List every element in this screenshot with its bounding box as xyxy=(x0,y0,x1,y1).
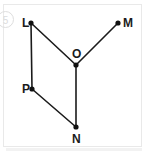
segment-pn xyxy=(32,89,76,127)
vertex-label-m: M xyxy=(123,16,133,30)
vertex-point-o xyxy=(73,62,78,67)
segment-mo xyxy=(76,23,118,65)
geometry-figure: LMOPN xyxy=(0,0,150,159)
segment-lo xyxy=(31,23,76,65)
segment-lp xyxy=(31,23,32,89)
segment-group xyxy=(31,23,118,127)
vertex-label-p: P xyxy=(22,82,30,96)
vertex-label-o: O xyxy=(72,47,81,61)
vertex-label-l: L xyxy=(22,16,29,30)
vertex-point-m xyxy=(115,20,120,25)
vertex-group: LMOPN xyxy=(22,16,133,146)
vertex-point-p xyxy=(29,86,34,91)
diagram-page: 5 LMOPN xyxy=(0,0,150,159)
vertex-label-n: N xyxy=(72,132,81,146)
vertex-point-n xyxy=(73,124,78,129)
